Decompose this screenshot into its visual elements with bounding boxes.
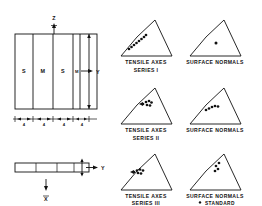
legend-standard: STANDARD bbox=[199, 201, 235, 206]
layer-label-s-right: S bbox=[61, 68, 65, 74]
data-points-tensile-3 bbox=[130, 168, 144, 175]
panel-caption-normals-2-line1: SURFACE NORMALS bbox=[186, 127, 244, 133]
panel-caption-normals-1-line1: SURFACE NORMALS bbox=[186, 59, 244, 65]
right-band-arrow-top bbox=[87, 34, 91, 38]
dimension-line bbox=[13, 116, 97, 122]
figure-canvas: Z S M S M Y bbox=[0, 0, 262, 205]
z-axis-arrow bbox=[51, 23, 57, 34]
panel-caption-tensile-1-line1: TENSILE AXES bbox=[125, 59, 167, 65]
dimension-label-3: 4 bbox=[63, 122, 66, 127]
specimen-front-view: Z S M S M Y bbox=[13, 15, 100, 127]
figure-root: Z S M S M Y bbox=[0, 0, 262, 205]
y-axis-arrow-front bbox=[81, 69, 93, 73]
dimension-label-4: 4 bbox=[81, 122, 84, 127]
y-axis-label-edge: Y bbox=[101, 165, 105, 171]
x-axis-arrow bbox=[43, 179, 49, 196]
unit-triangle-outline bbox=[121, 20, 172, 56]
legend-standard-label: STANDARD bbox=[205, 201, 235, 206]
unit-triangle-outline bbox=[190, 20, 241, 56]
panel-caption-tensile-3-line1: TENSILE AXES bbox=[125, 193, 167, 199]
panel-caption-tensile-1-line2: SERIES I bbox=[134, 67, 159, 73]
dimension-label-2: 4 bbox=[43, 122, 46, 127]
z-axis-label: Z bbox=[52, 15, 56, 21]
y-axis-label-front: Y bbox=[96, 69, 100, 75]
layer-label-m-narrow: M bbox=[75, 69, 79, 74]
panel-surface-normals-series-3: SURFACE NORMALS STANDARD bbox=[186, 154, 244, 205]
y-axis-arrow-edge bbox=[86, 166, 98, 170]
data-points-normals-2 bbox=[205, 105, 220, 112]
panel-tensile-axes-series-3: TENSILE AXES SERIES III bbox=[121, 154, 172, 205]
panel-surface-normals-series-2: SURFACE NORMALS bbox=[186, 88, 244, 133]
specimen-edge-view: Y X bbox=[15, 159, 105, 203]
right-band-arrow-bottom bbox=[87, 105, 91, 109]
data-points-normals-1 bbox=[215, 42, 218, 45]
layer-label-s-left: S bbox=[22, 68, 26, 74]
panel-caption-normals-3-line1: SURFACE NORMALS bbox=[186, 193, 244, 199]
legend-marker-icon bbox=[199, 201, 201, 203]
panel-caption-tensile-2-line1: TENSILE AXES bbox=[125, 127, 167, 133]
panel-caption-tensile-3-line2: SERIES III bbox=[132, 200, 161, 206]
dimension-label-1: 4 bbox=[23, 122, 26, 127]
panel-caption-tensile-2-line2: SERIES II bbox=[133, 135, 160, 141]
layer-label-m-center: M bbox=[41, 68, 46, 74]
x-axis-label: X bbox=[44, 196, 48, 202]
data-points-normals-3 bbox=[214, 162, 221, 173]
panel-tensile-axes-series-2: TENSILE AXES SERIES II bbox=[121, 88, 172, 141]
panel-surface-normals-series-1: SURFACE NORMALS bbox=[186, 20, 244, 65]
panel-tensile-axes-series-1: TENSILE AXES SERIES I bbox=[121, 20, 172, 73]
unit-triangle-outline bbox=[121, 154, 172, 190]
